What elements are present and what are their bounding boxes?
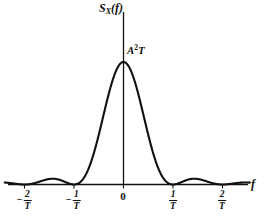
plot-canvas	[0, 0, 266, 218]
tick-numerator: 2	[23, 189, 31, 200]
x-tick-label-zero: 0	[120, 191, 126, 202]
tick-numerator: 1	[169, 189, 177, 200]
x-tick-label-1-over-T: 1T	[169, 189, 177, 212]
x-tick-label-minus-1-over-T: −1T	[66, 189, 81, 212]
tick-denominator: T	[72, 200, 80, 212]
tick-fraction: 1T	[169, 189, 177, 212]
tick-sign: −	[17, 195, 24, 205]
y-axis-title-argument: (f)	[111, 1, 123, 15]
tick-denominator: T	[169, 200, 177, 212]
sinc-squared-curve	[5, 62, 250, 185]
tick-fraction: 2T	[218, 189, 226, 212]
x-axis-title-symbol: f	[251, 177, 255, 191]
x-tick-label-minus-2-over-T: −2T	[17, 189, 32, 212]
tick-fraction: 1T	[72, 189, 80, 212]
tick-sign: −	[66, 195, 73, 205]
tick-numerator: 0	[120, 190, 126, 202]
tick-numerator: 2	[218, 189, 226, 200]
tick-denominator: T	[218, 200, 226, 212]
tick-numerator: 1	[72, 189, 80, 200]
y-axis-title: SX(f)	[99, 2, 123, 16]
psd-figure: SX(f) A2T f −2T −1T 0 1T 2T	[0, 0, 266, 218]
tick-denominator: T	[23, 200, 31, 212]
tick-fraction: 2T	[23, 189, 31, 212]
x-axis-title: f	[251, 178, 255, 190]
peak-amplitude-label: A2T	[127, 44, 145, 56]
peak-label-tail: T	[138, 44, 145, 56]
x-tick-label-2-over-T: 2T	[218, 189, 226, 212]
y-axis-title-symbol: S	[99, 1, 106, 15]
